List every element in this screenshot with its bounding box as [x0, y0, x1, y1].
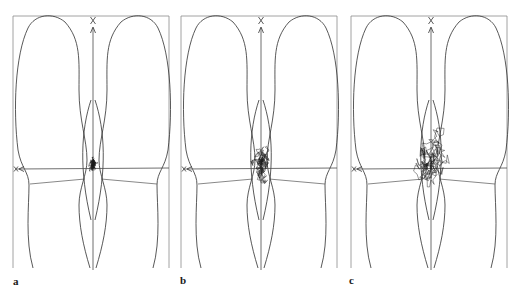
panel-label-c: c — [349, 274, 354, 286]
panel-a — [13, 16, 171, 270]
heel-line-left — [198, 179, 253, 184]
sway-trace — [251, 146, 269, 183]
heel-line-left — [368, 179, 423, 184]
figure-canvas — [0, 0, 526, 293]
left-foot-outline — [183, 16, 258, 268]
right-foot-outline — [434, 16, 509, 268]
heel-line-right — [439, 179, 495, 184]
panel-label-b: b — [180, 274, 186, 286]
heel-line-right — [101, 179, 157, 184]
panel-label-a: a — [13, 275, 19, 287]
panel-frame — [13, 16, 169, 268]
x-marker-top-icon — [429, 17, 434, 24]
left-foot-outline — [15, 16, 90, 268]
panel-b — [181, 16, 339, 270]
panel-frame — [351, 16, 507, 268]
x-marker-top-icon — [259, 17, 264, 24]
heel-line-left — [30, 179, 85, 184]
right-foot-outline — [96, 16, 171, 268]
panel-c — [351, 16, 509, 270]
heel-line-right — [269, 179, 325, 184]
right-foot-outline — [264, 16, 339, 268]
panel-frame — [181, 16, 337, 268]
sway-trace — [414, 128, 450, 187]
left-foot-outline — [353, 16, 428, 268]
x-marker-top-icon — [91, 17, 96, 24]
